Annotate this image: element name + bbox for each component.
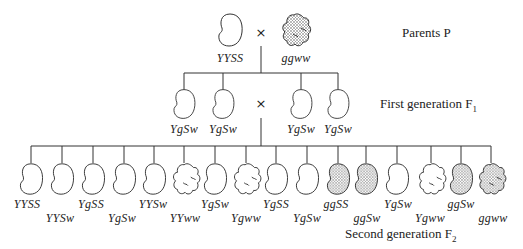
seed-yellow-smooth-icon	[143, 164, 165, 194]
dihybrid-cross-diagram: × × Parents P First generation F1 Second…	[0, 0, 523, 249]
seed-yellow-smooth-icon	[204, 164, 226, 194]
seed-yellow-smooth-icon	[296, 164, 318, 194]
cross-symbol: ×	[256, 96, 267, 111]
seed-yellow-smooth-icon	[82, 164, 104, 194]
genotype-label: ggSw	[447, 197, 474, 212]
seed-yellow-wrinkled-icon	[173, 164, 199, 194]
genotype-label: YYSw	[139, 197, 168, 212]
parents-label: Parents P	[402, 25, 451, 41]
genotype-label: YgSw	[108, 211, 136, 226]
genotype-label: YgSw	[209, 122, 237, 137]
genotype-label: YgSw	[201, 197, 229, 212]
seed-yellow-smooth-icon	[174, 90, 195, 119]
seed-yellow-smooth-icon	[113, 164, 135, 194]
genotype-label: YgSw	[170, 122, 198, 137]
genotype-label: YYww	[170, 211, 201, 226]
genotype-label: Ygww	[231, 211, 261, 226]
genotype-label: ggSw	[353, 211, 380, 226]
seed-yellow-wrinkled-icon	[419, 164, 445, 194]
seed-yellow-smooth-icon	[386, 164, 408, 194]
seed-yellow-smooth-icon	[20, 164, 42, 194]
genotype-label: YYSS	[217, 51, 244, 66]
genotype-label: YgSw	[384, 197, 412, 212]
cross-symbol: ×	[256, 25, 267, 40]
seed-yellow-smooth-icon	[265, 164, 287, 194]
seed-green-smooth-icon	[450, 164, 472, 194]
genotype-label: ggww	[478, 211, 507, 226]
seed-yellow-smooth-icon	[291, 90, 312, 119]
seed-yellow-wrinkled-icon	[234, 164, 260, 194]
seed-green-wrinkled-icon	[283, 14, 311, 46]
seed-yellow-smooth-icon	[219, 14, 242, 46]
genotype-label: YYSS	[14, 197, 41, 212]
seed-yellow-smooth-icon	[213, 90, 234, 119]
seed-green-smooth-icon	[327, 164, 349, 194]
genotype-label: YgSw	[293, 211, 321, 226]
f2-label: Second generation F2	[345, 226, 456, 244]
genotype-label: YgSw	[287, 122, 315, 137]
genotype-label: YYSw	[46, 211, 75, 226]
genotype-label: YgSS	[263, 197, 289, 212]
seed-yellow-smooth-icon	[328, 90, 349, 119]
genotype-label: ggww	[281, 51, 310, 66]
seed-green-wrinkled-icon	[479, 164, 505, 194]
genotype-label: Ygww	[415, 211, 445, 226]
genotype-label: YgSw	[324, 122, 352, 137]
genotype-label: ggSS	[323, 197, 348, 212]
f1-label: First generation F1	[380, 96, 477, 114]
f2-seeds	[20, 164, 506, 194]
seed-yellow-smooth-icon	[51, 164, 73, 194]
genotype-label: YgSS	[78, 197, 104, 212]
seed-green-smooth-icon	[355, 164, 377, 194]
